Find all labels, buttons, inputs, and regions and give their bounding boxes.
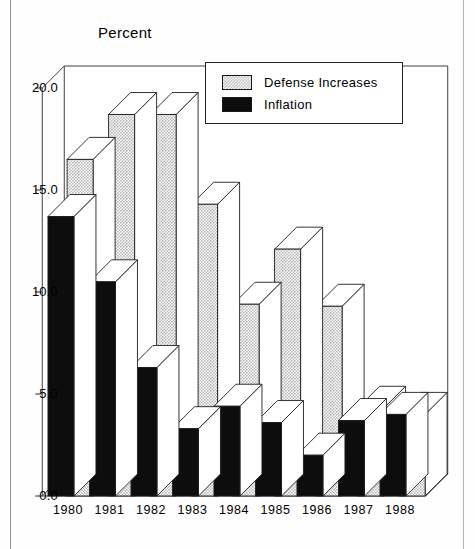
legend-label-inflation: Inflation	[264, 97, 312, 112]
legend-label-defense: Defense Increases	[264, 75, 378, 90]
bar-inflation-1985	[255, 401, 303, 496]
chart-legend: Defense Increases Inflation	[205, 62, 403, 124]
bar-inflation-1988	[380, 392, 428, 496]
bar-inflation-1987	[338, 399, 386, 496]
inflation-swatch	[222, 97, 252, 112]
bar-inflation-1984	[214, 384, 262, 496]
bar-inflation-1981	[89, 260, 137, 496]
bar-chart: Percent 20.015.010.05.00.0 1980198119821…	[0, 0, 475, 549]
x-axis-tick-label: 1981	[88, 503, 132, 517]
x-axis-tick-label: 1987	[337, 503, 381, 517]
y-axis-tick-label: 20.0	[10, 80, 58, 95]
defense-swatch	[222, 75, 252, 90]
x-axis-tick-label: 1984	[212, 503, 256, 517]
x-axis-tick-label: 1983	[171, 503, 215, 517]
bar-inflation-1982	[131, 345, 179, 496]
y-axis-tick-label: 0.0	[10, 488, 58, 503]
x-axis-tick-label: 1988	[378, 503, 422, 517]
legend-item-inflation: Inflation	[222, 97, 312, 112]
y-axis-tick-label: 5.0	[10, 386, 58, 401]
legend-item-defense: Defense Increases	[222, 75, 378, 90]
x-axis-tick-label: 1986	[295, 503, 339, 517]
x-axis-tick-label: 1982	[129, 503, 173, 517]
y-axis-tick-label: 10.0	[10, 284, 58, 299]
x-axis-tick-label: 1980	[46, 503, 90, 517]
y-axis-tick-label: 15.0	[10, 182, 58, 197]
chart-screenshot: Percent 20.015.010.05.00.0 1980198119821…	[0, 0, 475, 549]
x-axis-tick-label: 1985	[254, 503, 298, 517]
bar-inflation-1980	[48, 195, 96, 496]
